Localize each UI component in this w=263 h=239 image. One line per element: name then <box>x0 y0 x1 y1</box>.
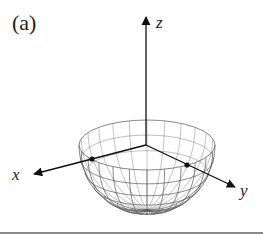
z-axis-label: z <box>155 13 163 32</box>
y-axis-label: y <box>238 181 248 200</box>
x-axis-label: x <box>11 165 20 184</box>
horizontal-rule <box>0 232 263 234</box>
hemisphere-diagram: (a) z x y <box>0 0 263 239</box>
point-on-y-axis <box>184 162 189 167</box>
panel-label: (a) <box>12 10 36 35</box>
y-axis <box>146 145 235 187</box>
axes <box>34 17 235 187</box>
point-on-x-axis <box>89 156 94 161</box>
